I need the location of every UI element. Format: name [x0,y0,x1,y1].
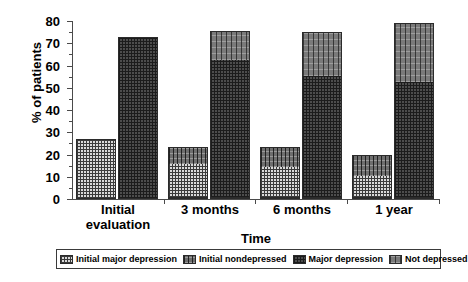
y-tick-label-30: 30 [46,125,60,140]
x-label-3-months: 3 months [164,202,256,217]
segment-initial-nondepressed [353,155,391,177]
y-tick-label-0: 0 [53,192,60,207]
legend-item-major-depression: Major depression [293,254,384,264]
legend-swatch-major-depression [293,255,306,264]
legend-label-initial-major-depression: Initial major depression [76,254,177,264]
y-tick-label-40: 40 [46,103,60,118]
legend-label-major-depression: Major depression [309,254,384,264]
bar-6-months-right [302,32,342,199]
chart-legend: Initial major depression Initial nondepr… [56,249,441,269]
legend-label-not-depressed: Not depressed [405,254,468,264]
y-tick-minor-75 [69,32,72,33]
y-tick-minor-5 [69,188,72,189]
y-tick-30: 30 [67,132,72,133]
y-tick-minor-25 [69,143,72,144]
segment-initial-major-depression [261,167,299,198]
y-tick-label-10: 10 [46,169,60,184]
bar-group-3-months [168,21,256,199]
bar-1-year-left [352,155,392,200]
bar-initial-evaluation-right [118,37,158,199]
y-tick-label-50: 50 [46,80,60,95]
legend-swatch-not-depressed [389,255,402,264]
y-tick-50: 50 [67,88,72,89]
y-tick-60: 60 [67,66,72,67]
y-tick-minor-45 [69,99,72,100]
bar-group-6-months [260,21,348,199]
legend-item-not-depressed: Not depressed [389,254,468,264]
y-tick-label-20: 20 [46,147,60,162]
bar-initial-evaluation-left [76,139,116,199]
segment-major-depression [395,82,433,198]
y-tick-80: 80 [67,21,72,22]
y-axis-line [72,21,73,199]
y-tick-20: 20 [67,155,72,156]
bar-group-1-year [352,21,440,199]
y-tick-minor-35 [69,121,72,122]
x-axis-title: Time [72,231,440,246]
segment-not-depressed [395,23,433,82]
segment-initial-nondepressed [169,147,207,164]
x-label-line-2: evaluation [72,217,164,232]
y-tick-0: 0 [67,199,72,200]
bar-6-months-left [260,147,300,199]
segment-initial-major-depression [169,164,207,199]
segment-not-depressed [211,31,249,60]
segment-initial-major-depression [77,140,115,198]
legend-swatch-initial-nondepressed [183,255,196,264]
y-tick-label-60: 60 [46,58,60,73]
segment-major-depression [211,60,249,198]
y-tick-70: 70 [67,43,72,44]
x-label-1-year: 1 year [348,202,440,217]
legend-swatch-initial-major-depression [60,255,73,264]
y-tick-label-80: 80 [46,14,60,29]
y-tick-minor-55 [69,77,72,78]
x-label-line-1: Initial [72,202,164,217]
segment-initial-major-depression [353,176,391,198]
legend-item-initial-nondepressed: Initial nondepressed [183,254,287,264]
segment-major-depression [303,76,341,198]
segment-not-depressed [303,32,341,76]
plot-area: 0 10 20 30 40 50 60 70 80 [72,21,440,199]
y-axis-title: % of patients [29,3,44,163]
legend-item-initial-major-depression: Initial major depression [60,254,177,264]
segment-major-depression [119,38,157,198]
bar-group-initial-evaluation [76,21,164,199]
x-label-6-months: 6 months [256,202,348,217]
y-tick-minor-65 [69,54,72,55]
y-tick-label-70: 70 [46,36,60,51]
bar-3-months-right [210,31,250,199]
legend-label-initial-nondepressed: Initial nondepressed [199,254,287,264]
bar-1-year-right [394,23,434,199]
y-tick-40: 40 [67,110,72,111]
y-tick-10: 10 [67,177,72,178]
y-tick-minor-15 [69,166,72,167]
bar-3-months-left [168,147,208,199]
segment-initial-nondepressed [261,147,299,168]
x-label-initial-evaluation: Initial evaluation [72,202,164,232]
x-axis-line [72,199,440,200]
